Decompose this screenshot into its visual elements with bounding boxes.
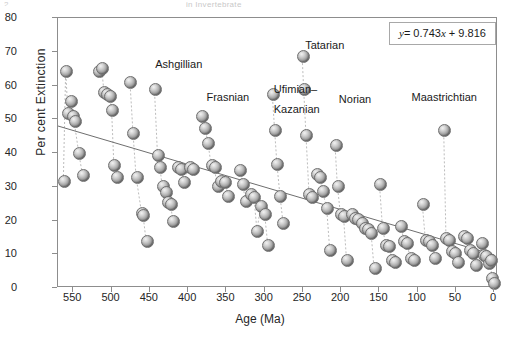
plot-area: AshgillianFrasnianUfimian–KazanianTatari… xyxy=(57,17,497,287)
x-tick-label-0: 0 xyxy=(490,291,496,303)
data-point xyxy=(317,185,330,198)
data-point xyxy=(262,239,275,252)
y-tick-mark-40 xyxy=(52,152,57,153)
data-point xyxy=(488,277,501,290)
y-axis-label: Per cent Extinction xyxy=(34,27,48,177)
equation-coefficient: = 0.743 xyxy=(404,27,441,39)
x-tick-label-400: 400 xyxy=(178,291,196,303)
x-tick-mark-50 xyxy=(455,287,456,292)
x-tick-mark-250 xyxy=(302,287,303,292)
data-point xyxy=(389,256,402,269)
data-point xyxy=(73,147,86,160)
x-tick-label-500: 500 xyxy=(101,291,119,303)
data-point xyxy=(330,139,343,152)
y-tick-mark-20 xyxy=(52,220,57,221)
y-tick-label-60: 60 xyxy=(0,79,17,91)
y-tick-mark-50 xyxy=(52,118,57,119)
data-point xyxy=(141,235,154,248)
x-tick-mark-200 xyxy=(340,287,341,292)
x-tick-mark-450 xyxy=(149,287,150,292)
annotation-ufimian: Ufimian– xyxy=(274,83,317,95)
figure-scatter-extinction: 2. in Invertebrate Per cent Extinction A… xyxy=(0,0,520,341)
data-point xyxy=(476,237,489,250)
data-point xyxy=(106,104,119,117)
data-point xyxy=(209,161,222,174)
y-tick-label-50: 50 xyxy=(0,112,17,124)
annotation-ashgillian: Ashgillian xyxy=(155,58,202,70)
x-tick-mark-150 xyxy=(378,287,379,292)
x-tick-label-350: 350 xyxy=(216,291,234,303)
y-tick-label-70: 70 xyxy=(0,45,17,57)
y-tick-mark-80 xyxy=(52,17,57,18)
y-tick-mark-60 xyxy=(52,85,57,86)
data-point xyxy=(104,90,117,103)
x-tick-label-550: 550 xyxy=(63,291,81,303)
y-tick-mark-10 xyxy=(52,253,57,254)
data-point xyxy=(332,180,345,193)
y-tick-mark-0 xyxy=(52,287,57,288)
x-tick-mark-550 xyxy=(72,287,73,292)
x-tick-label-100: 100 xyxy=(407,291,425,303)
data-point xyxy=(222,190,235,203)
x-tick-mark-500 xyxy=(111,287,112,292)
plot-inner: AshgillianFrasnianUfimian–KazanianTatari… xyxy=(58,18,496,286)
y-tick-label-40: 40 xyxy=(0,146,17,158)
annotation-tatarian: Tatarian xyxy=(305,39,344,51)
annotation-frasnian: Frasnian xyxy=(206,91,249,103)
y-tick-label-80: 80 xyxy=(0,11,17,23)
y-tick-label-30: 30 xyxy=(0,180,17,192)
x-tick-mark-350 xyxy=(225,287,226,292)
data-point xyxy=(187,163,200,176)
y-tick-label-0: 0 xyxy=(0,281,17,293)
x-axis-label: Age (Ma) xyxy=(0,312,520,326)
annotation-kazanian: Kazanian xyxy=(274,103,320,115)
data-point xyxy=(297,50,310,63)
data-point xyxy=(369,262,382,275)
x-tick-mark-0 xyxy=(493,287,494,292)
x-tick-mark-100 xyxy=(417,287,418,292)
x-tick-label-450: 450 xyxy=(140,291,158,303)
x-tick-label-200: 200 xyxy=(331,291,349,303)
annotation-maastrichtian: Maastrichtian xyxy=(412,91,477,103)
x-tick-mark-300 xyxy=(264,287,265,292)
data-point xyxy=(271,158,284,171)
x-tick-label-50: 50 xyxy=(449,291,461,303)
data-point xyxy=(461,232,474,245)
data-point xyxy=(374,178,387,191)
y-tick-mark-30 xyxy=(52,186,57,187)
x-tick-label-300: 300 xyxy=(254,291,272,303)
y-tick-label-10: 10 xyxy=(0,247,17,259)
y-tick-mark-70 xyxy=(52,51,57,52)
data-point xyxy=(438,124,451,137)
data-point xyxy=(452,256,465,269)
x-tick-label-150: 150 xyxy=(369,291,387,303)
regression-equation-box: y= 0.743x + 9.816 xyxy=(389,22,496,45)
page-corner-mark: 2. xyxy=(4,0,20,6)
cropped-caption-text: in Invertebrate xyxy=(186,0,336,7)
data-point xyxy=(69,115,82,128)
equation-xsym: x xyxy=(441,27,446,39)
data-point xyxy=(408,254,421,267)
data-point xyxy=(58,175,71,188)
data-point xyxy=(324,244,337,257)
data-point xyxy=(485,254,498,267)
data-point xyxy=(417,198,430,211)
x-tick-label-250: 250 xyxy=(293,291,311,303)
annotation-norian: Norian xyxy=(339,93,371,105)
y-tick-label-20: 20 xyxy=(0,214,17,226)
data-point xyxy=(269,124,282,137)
data-point xyxy=(131,171,144,184)
data-point xyxy=(321,202,334,215)
data-point xyxy=(341,254,354,267)
data-point xyxy=(377,222,390,235)
data-point xyxy=(65,95,78,108)
equation-intercept: + 9.816 xyxy=(449,27,486,39)
data-point xyxy=(426,239,439,252)
x-tick-mark-400 xyxy=(187,287,188,292)
